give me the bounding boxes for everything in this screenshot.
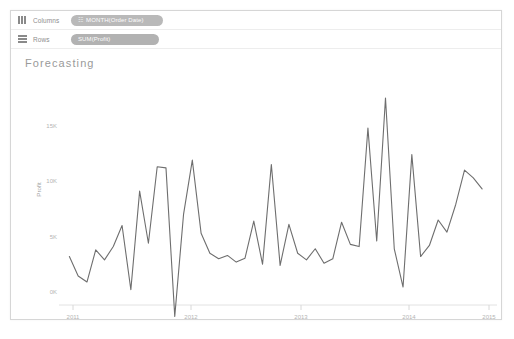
pill-sum-profit[interactable]: SUM(Profit) bbox=[71, 34, 159, 45]
rows-icon bbox=[17, 34, 28, 44]
y-axis-tick-label: 10K bbox=[46, 178, 57, 184]
profit-line-series[interactable] bbox=[69, 98, 482, 316]
columns-shelf[interactable]: Columns ☷ MONTH(Order Date) bbox=[11, 11, 501, 30]
line-chart-svg: 0K5K10K15KProfit20112012201320142015Mont… bbox=[11, 49, 503, 320]
calendar-icon: ☷ bbox=[78, 17, 83, 23]
x-axis-tick-label: 2013 bbox=[294, 314, 308, 320]
pill-month-order-date-label: MONTH(Order Date) bbox=[86, 17, 143, 23]
y-axis-tick-label: 5K bbox=[50, 234, 57, 240]
pill-month-order-date[interactable]: ☷ MONTH(Order Date) bbox=[71, 15, 163, 26]
columns-icon bbox=[17, 15, 28, 25]
y-axis-title: Profit bbox=[35, 182, 42, 197]
x-axis-tick-label: 2014 bbox=[402, 314, 416, 320]
y-axis-tick-label: 15K bbox=[46, 123, 57, 129]
x-axis-tick-label: 2011 bbox=[67, 314, 81, 320]
y-axis-tick-label: 0K bbox=[50, 289, 57, 295]
tableau-worksheet-window: Columns ☷ MONTH(Order Date) Rows SUM(Pro… bbox=[10, 10, 502, 320]
x-axis-tick-label: 2015 bbox=[482, 314, 496, 320]
rows-shelf[interactable]: Rows SUM(Profit) bbox=[11, 30, 501, 49]
pill-sum-profit-label: SUM(Profit) bbox=[78, 36, 110, 42]
line-chart[interactable]: 0K5K10K15KProfit20112012201320142015Mont… bbox=[11, 49, 503, 320]
x-axis-tick-label: 2012 bbox=[184, 314, 198, 320]
rows-shelf-label: Rows bbox=[33, 36, 71, 43]
visualization-pane: Forecasting 0K5K10K15KProfit201120122013… bbox=[11, 49, 501, 320]
columns-shelf-label: Columns bbox=[33, 17, 71, 24]
